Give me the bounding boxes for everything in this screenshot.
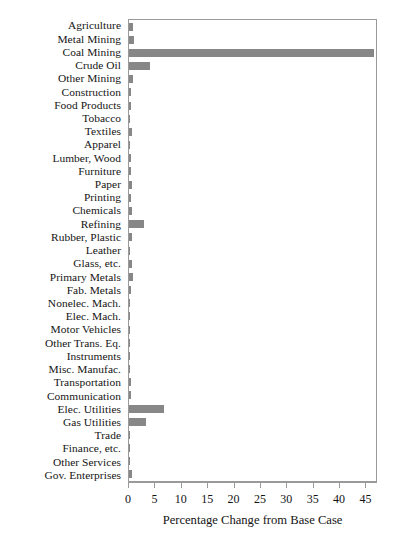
bar-row [129, 336, 376, 349]
category-label: Gov. Enterprises [0, 469, 125, 481]
bar [129, 391, 131, 399]
bar [129, 233, 132, 241]
bars-container [129, 20, 376, 481]
bar-row [129, 46, 376, 59]
category-label: Other Trans. Eq. [0, 337, 125, 349]
category-label: Food Products [0, 99, 125, 111]
bar-row [129, 20, 376, 33]
bar-row [129, 99, 376, 112]
category-axis-labels: AgricultureMetal MiningCoal MiningCrude … [0, 19, 125, 482]
bar [129, 36, 134, 44]
category-label: Finance, etc. [0, 442, 125, 454]
bar-row [129, 33, 376, 46]
bar-row [129, 165, 376, 178]
x-tick-mark [234, 482, 235, 488]
bar [129, 128, 132, 136]
category-label: Metal Mining [0, 33, 125, 45]
category-label: Leather [0, 244, 125, 256]
x-tick-label: 5 [151, 492, 157, 506]
bar-row [129, 270, 376, 283]
bar-row [129, 362, 376, 375]
x-tick-mark [207, 482, 208, 488]
bar [129, 339, 130, 347]
category-label: Chemicals [0, 204, 125, 216]
category-label: Misc. Manufac. [0, 363, 125, 375]
bar-row [129, 244, 376, 257]
x-tick-mark [286, 482, 287, 488]
bar [129, 141, 130, 149]
x-tick-label: 15 [201, 492, 213, 506]
bar-row [129, 455, 376, 468]
bar [129, 457, 130, 465]
bar [129, 299, 130, 307]
bar-row [129, 283, 376, 296]
x-tick-label: 10 [175, 492, 187, 506]
bar [129, 378, 131, 386]
bar-row [129, 442, 376, 455]
category-label: Instruments [0, 350, 125, 362]
bar [129, 62, 150, 70]
bar [129, 431, 130, 439]
bar [129, 49, 374, 57]
x-axis-tick-labels: 051015202530354045 [0, 492, 408, 508]
bar-row [129, 86, 376, 99]
bar-row [129, 125, 376, 138]
x-tick-label: 25 [254, 492, 266, 506]
bar-row [129, 218, 376, 231]
bar [129, 102, 131, 110]
x-tick-mark [365, 482, 366, 488]
bar [129, 88, 131, 96]
bar-row [129, 152, 376, 165]
x-tick-label: 0 [125, 492, 131, 506]
x-tick-label: 40 [333, 492, 345, 506]
bar [129, 115, 130, 123]
bar-row [129, 112, 376, 125]
x-tick-label: 35 [307, 492, 319, 506]
category-label: Elec. Mach. [0, 310, 125, 322]
bar [129, 154, 131, 162]
x-tick-mark [128, 482, 129, 488]
x-axis [128, 482, 377, 492]
bar [129, 260, 132, 268]
category-label: Agriculture [0, 19, 125, 31]
category-label: Refining [0, 218, 125, 230]
x-tick-mark [181, 482, 182, 488]
x-axis-title: Percentage Change from Base Case [128, 512, 377, 528]
bar-row [129, 191, 376, 204]
bar-row [129, 257, 376, 270]
bar [129, 312, 130, 320]
category-label: Motor Vehicles [0, 323, 125, 335]
bar [129, 167, 131, 175]
category-label: Furniture [0, 165, 125, 177]
category-label: Apparel [0, 138, 125, 150]
bar [129, 247, 130, 255]
bar-row [129, 178, 376, 191]
category-label: Lumber, Wood [0, 152, 125, 164]
bar-row [129, 73, 376, 86]
bar [129, 405, 164, 413]
category-label: Paper [0, 178, 125, 190]
x-tick-label: 30 [280, 492, 292, 506]
category-label: Communication [0, 390, 125, 402]
bar-row [129, 310, 376, 323]
category-label: Trade [0, 429, 125, 441]
bar-row [129, 231, 376, 244]
bar [129, 207, 132, 215]
x-tick-mark [154, 482, 155, 488]
bar [129, 181, 132, 189]
bar-row [129, 139, 376, 152]
bar [129, 220, 144, 228]
category-label: Gas Utilities [0, 416, 125, 428]
category-label: Crude Oil [0, 59, 125, 71]
x-tick-label: 20 [228, 492, 240, 506]
bar-row [129, 415, 376, 428]
bar-row [129, 349, 376, 362]
bar [129, 286, 131, 294]
category-label: Other Services [0, 456, 125, 468]
bar-row [129, 402, 376, 415]
category-label: Printing [0, 191, 125, 203]
bar-row [129, 297, 376, 310]
bar [129, 326, 130, 334]
bar-row [129, 428, 376, 441]
bar [129, 273, 133, 281]
